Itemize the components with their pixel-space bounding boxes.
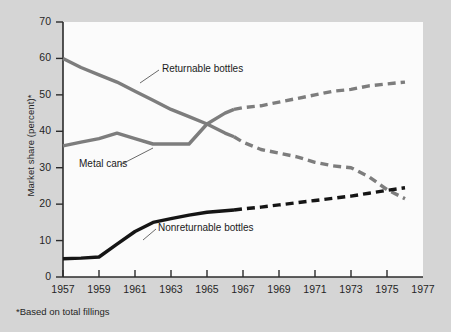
- leader-line-returnable: [140, 70, 159, 83]
- x-tick-label-1969: 1969: [259, 283, 299, 295]
- series-dashed-returnable-bottles: [234, 137, 405, 199]
- y-tick-label-60: 60: [25, 51, 51, 63]
- x-tick-label-1973: 1973: [331, 283, 371, 295]
- y-tick-marks: [56, 22, 63, 277]
- chart-figure: Market share (percent)* 010203040506070 …: [0, 0, 451, 332]
- series-label-returnable-bottles: Returnable bottles: [162, 63, 243, 74]
- annotation-leader-lines: [120, 70, 159, 240]
- y-tick-label-50: 50: [25, 88, 51, 100]
- series-label-metal-cans: Metal cans: [79, 158, 127, 169]
- series-dashed-metal-cans: [234, 82, 405, 109]
- y-tick-label-30: 30: [25, 161, 51, 173]
- y-tick-label-10: 10: [25, 234, 51, 246]
- y-tick-label-40: 40: [25, 124, 51, 136]
- y-tick-label-20: 20: [25, 197, 51, 209]
- axes-group: [63, 22, 423, 277]
- series-solid-nonreturnable-bottles: [63, 210, 234, 259]
- y-axis-title: Market share (percent)*: [25, 36, 36, 256]
- x-tick-label-1965: 1965: [187, 283, 227, 295]
- leader-line-nonreturnable: [143, 229, 156, 240]
- x-tick-label-1967: 1967: [223, 283, 263, 295]
- series-solid-metal-cans: [63, 109, 234, 145]
- y-tick-label-0: 0: [25, 270, 51, 282]
- x-tick-marks: [63, 270, 387, 277]
- x-tick-label-1961: 1961: [115, 283, 155, 295]
- x-tick-label-1963: 1963: [151, 283, 191, 295]
- chart-footnote: *Based on total fillings: [16, 306, 109, 317]
- x-tick-label-1957: 1957: [43, 283, 83, 295]
- series-dashed-nonreturnable-bottles: [234, 188, 405, 210]
- x-tick-label-1959: 1959: [79, 283, 119, 295]
- x-tick-label-1975: 1975: [367, 283, 407, 295]
- series-label-nonreturnable-bottles: Nonreturnable bottles: [158, 222, 254, 233]
- x-tick-label-1977: 1977: [403, 283, 443, 295]
- x-tick-label-1971: 1971: [295, 283, 335, 295]
- y-tick-label-70: 70: [25, 15, 51, 27]
